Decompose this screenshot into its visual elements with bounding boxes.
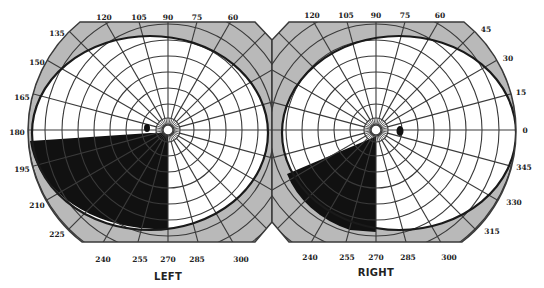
- left-angle-label-120: 120: [96, 13, 112, 22]
- left-angle-label-180: 180: [9, 128, 25, 137]
- left-angle-label-195: 195: [14, 165, 30, 174]
- left-angle-label-255: 255: [132, 255, 148, 264]
- left-angle-label-240: 240: [95, 255, 111, 264]
- left-angle-label-60: 60: [228, 13, 238, 22]
- left-angle-label-210: 210: [29, 201, 45, 210]
- right-angle-label-345: 345: [516, 163, 532, 172]
- left-eye-title: LEFT: [154, 271, 182, 282]
- left-angle-label-225: 225: [49, 230, 65, 239]
- right-angle-label-270: 270: [368, 253, 384, 262]
- right-angle-label-105: 105: [338, 11, 354, 20]
- fixation-point: [371, 125, 381, 135]
- blind-spot: [397, 126, 404, 136]
- right-eye-title: RIGHT: [358, 267, 394, 278]
- right-angle-label-15: 15: [516, 88, 526, 97]
- right-angle-label-90: 90: [371, 11, 381, 20]
- right-angle-label-240: 240: [302, 253, 318, 262]
- left-angle-label-75: 75: [192, 13, 202, 22]
- left-angle-label-135: 135: [49, 29, 65, 38]
- left-angle-label-300: 300: [233, 255, 249, 264]
- right-angle-label-0: 0: [522, 126, 527, 135]
- scotoma-inferior-temporal: [30, 133, 168, 230]
- right-angle-label-60: 60: [435, 11, 445, 20]
- fixation-point: [163, 125, 173, 135]
- left-angle-label-90: 90: [163, 13, 173, 22]
- perimetry-figure: [0, 0, 544, 288]
- right-angle-label-75: 75: [400, 11, 410, 20]
- left-angle-label-105: 105: [131, 13, 147, 22]
- right-angle-label-285: 285: [400, 253, 416, 262]
- right-angle-label-30: 30: [503, 54, 513, 63]
- right-angle-label-120: 120: [304, 11, 320, 20]
- blind-spot: [144, 124, 150, 132]
- left-angle-label-150: 150: [29, 58, 45, 67]
- right-angle-label-45: 45: [481, 25, 491, 34]
- right-angle-label-315: 315: [484, 227, 500, 236]
- left-angle-label-285: 285: [189, 255, 205, 264]
- right-angle-label-300: 300: [441, 253, 457, 262]
- right-angle-label-330: 330: [506, 198, 522, 207]
- left-angle-label-270: 270: [160, 255, 176, 264]
- right-angle-label-255: 255: [339, 253, 355, 262]
- left-angle-label-165: 165: [14, 93, 30, 102]
